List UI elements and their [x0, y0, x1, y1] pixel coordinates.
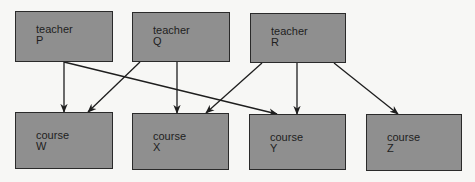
node-name-text: Z	[387, 143, 420, 154]
node-name-text: W	[36, 141, 69, 152]
course-node-z: course Z	[366, 114, 462, 171]
teacher-node-p: teacher P	[15, 11, 113, 62]
node-label: course Y	[270, 132, 303, 154]
teacher-course-diagram: teacher P teacher Q teacher R course W c…	[0, 0, 475, 182]
node-name-text: P	[36, 35, 73, 46]
teacher-node-r: teacher R	[250, 13, 346, 63]
course-node-x: course X	[132, 113, 229, 170]
node-name-text: Q	[153, 36, 190, 47]
course-node-y: course Y	[249, 114, 346, 170]
node-label: course Z	[387, 132, 420, 154]
node-name-text: X	[153, 142, 186, 153]
course-node-w: course W	[15, 112, 113, 169]
arrow-r-to-x	[206, 63, 262, 113]
node-label: teacher Q	[153, 25, 190, 47]
arrow-p-to-y	[64, 62, 277, 114]
node-label: teacher P	[36, 24, 73, 46]
teacher-node-q: teacher Q	[132, 12, 230, 62]
node-name-text: R	[271, 37, 308, 48]
node-label: course X	[153, 131, 186, 153]
node-label: course W	[36, 130, 69, 152]
arrow-r-to-z	[334, 63, 398, 114]
node-name-text: Y	[270, 143, 303, 154]
node-label: teacher R	[271, 26, 308, 48]
